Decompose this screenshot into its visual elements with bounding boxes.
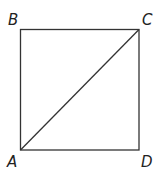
square-diagram: B C A D — [0, 0, 158, 174]
diagonal-ac — [21, 30, 140, 151]
vertex-label-d: D — [141, 153, 153, 171]
vertex-label-b: B — [8, 11, 18, 29]
vertex-label-c: C — [142, 11, 153, 29]
vertex-label-a: A — [6, 153, 17, 171]
